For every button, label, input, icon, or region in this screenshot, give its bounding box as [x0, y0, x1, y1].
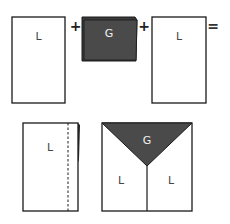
assembled-top-label: G	[143, 134, 152, 147]
plus-sign-1: +	[70, 18, 82, 34]
panel-left-label: L	[35, 30, 42, 43]
assembled-right-label: L	[168, 174, 175, 187]
panel-right-label: L	[176, 30, 183, 43]
assembled-left-label: L	[118, 174, 125, 187]
equals-sign: =	[207, 18, 219, 34]
panel-middle-g: G	[82, 17, 137, 61]
diagram-canvas: L + G + L = L G L L	[0, 0, 230, 224]
folded-panel-l: L	[23, 123, 80, 211]
plus-sign-2: +	[138, 18, 150, 34]
panel-middle-label: G	[105, 27, 114, 40]
panel-left-l: L	[12, 17, 65, 103]
assembled-result: G L L	[102, 123, 192, 211]
folded-panel-label: L	[47, 141, 54, 154]
panel-right-l: L	[152, 17, 206, 103]
